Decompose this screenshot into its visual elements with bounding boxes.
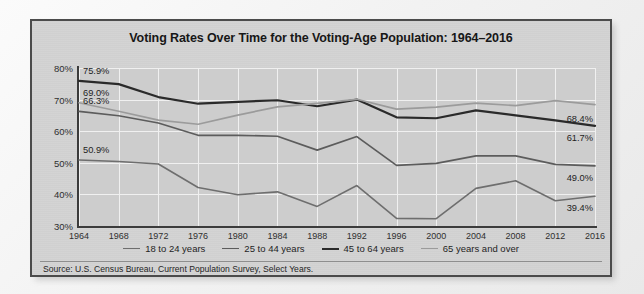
source-note: Source: U.S. Census Bureau, Current Popu… [43, 264, 313, 274]
y-tick-label: 80% [54, 63, 73, 74]
y-tick-label: 30% [54, 221, 73, 232]
x-tick-label: 2004 [466, 231, 486, 241]
y-tick-label: 70% [54, 94, 73, 105]
series-end-label: 68.4% [567, 114, 593, 124]
legend-item[interactable]: 25 to 44 years [222, 243, 304, 254]
series-lines [79, 68, 595, 226]
legend-item[interactable]: 18 to 24 years [123, 243, 205, 254]
x-tick-label: 2000 [426, 231, 446, 241]
series-end-label: 61.7% [567, 133, 593, 143]
chart-title: Voting Rates Over Time for the Voting-Ag… [32, 31, 610, 45]
series-start-label: 75.9% [83, 66, 109, 76]
x-tick-label: 2008 [506, 231, 526, 241]
plot-region: 30%40%50%60%70%80% 196419681972197619801… [79, 68, 595, 226]
series-line [79, 160, 595, 219]
series-end-label: 49.0% [567, 173, 593, 183]
legend-item-label: 25 to 44 years [244, 243, 304, 254]
x-tick-label: 1976 [188, 231, 208, 241]
x-tick-label: 1980 [228, 231, 248, 241]
legend-line-swatch [322, 248, 339, 250]
series-start-label: 66.3% [83, 96, 109, 106]
y-tick-label: 40% [54, 189, 73, 200]
legend-line-swatch [421, 248, 438, 249]
x-tick-label: 1972 [148, 231, 168, 241]
x-axis-line [77, 226, 597, 228]
legend-item-label: 45 to 64 years [344, 243, 404, 254]
x-tick-label: 1992 [347, 231, 367, 241]
x-tick-label: 1968 [109, 231, 129, 241]
y-tick-label: 50% [54, 157, 73, 168]
series-start-label: 50.9% [83, 145, 109, 155]
legend-item[interactable]: 45 to 64 years [322, 243, 404, 254]
x-tick-label: 2016 [585, 231, 605, 241]
legend-line-swatch [222, 248, 239, 249]
x-tick-label: 1964 [69, 231, 89, 241]
x-tick-label: 1984 [267, 231, 287, 241]
gridline-vertical [595, 68, 596, 226]
legend-line-swatch [123, 248, 140, 249]
chart-card: Voting Rates Over Time for the Voting-Ag… [30, 19, 612, 277]
x-tick-label: 2012 [545, 231, 565, 241]
legend-item-label: 65 years and over [443, 243, 519, 254]
footer-divider [40, 261, 602, 262]
legend-item[interactable]: 65 years and over [421, 243, 519, 254]
series-end-label: 39.4% [567, 203, 593, 213]
legend-item-label: 18 to 24 years [145, 243, 205, 254]
chart-legend: 18 to 24 years25 to 44 years45 to 64 yea… [32, 243, 610, 254]
x-tick-label: 1996 [387, 231, 407, 241]
y-tick-label: 60% [54, 126, 73, 137]
page-background: Voting Rates Over Time for the Voting-Ag… [0, 0, 644, 294]
x-tick-label: 1988 [307, 231, 327, 241]
series-start-label: 69.0% [83, 88, 109, 98]
